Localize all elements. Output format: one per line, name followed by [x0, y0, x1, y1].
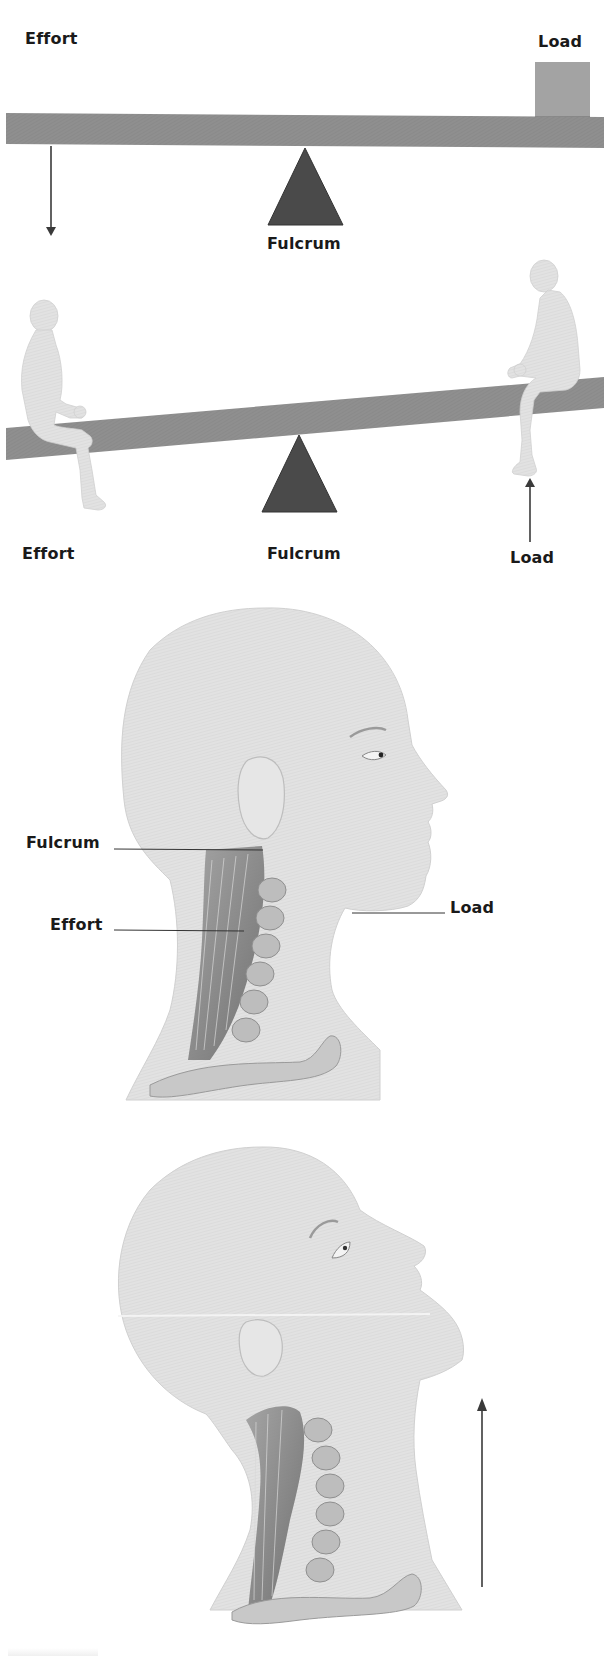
arrow-up-icon [477, 1398, 487, 1587]
cutoff-caption [8, 1648, 98, 1656]
head-extended-drawing [0, 0, 604, 1656]
head-silhouette [118, 1147, 463, 1610]
head-lever-extended-panel [0, 0, 604, 1656]
